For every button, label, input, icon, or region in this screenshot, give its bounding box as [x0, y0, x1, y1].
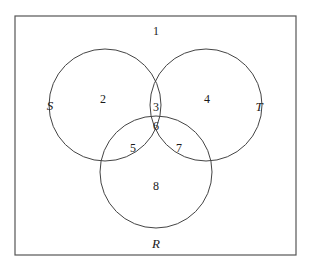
set-circle-T	[150, 49, 262, 161]
universal-set-rectangle	[15, 16, 296, 255]
set-circle-S	[49, 49, 161, 161]
set-circle-R	[100, 116, 212, 228]
venn-diagram-figure: S T R 1 2 3 4 5 6 7 8	[0, 0, 313, 268]
venn-diagram-canvas	[0, 0, 313, 268]
